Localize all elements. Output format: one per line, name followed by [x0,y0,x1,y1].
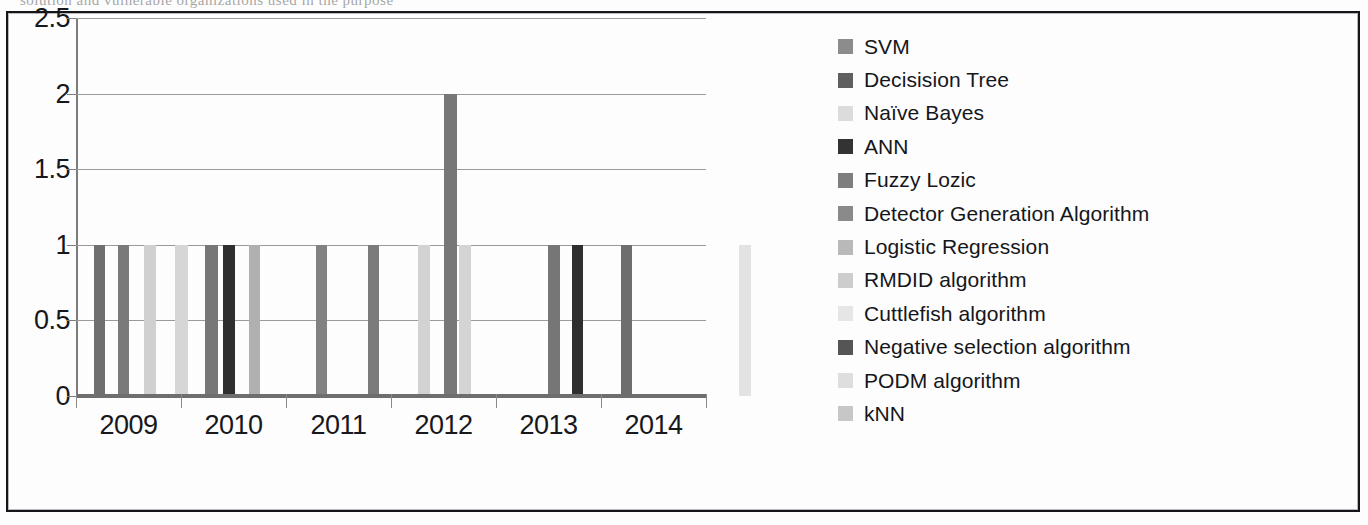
x-axis-category-label: 2011 [310,410,366,441]
legend-item[interactable]: Decisision Tree [838,63,1298,96]
legend-item[interactable]: Naïve Bayes [838,97,1298,130]
legend-item[interactable]: Logistic Regression [838,230,1298,263]
x-axis-tick [391,394,392,408]
legend-swatch-icon [838,173,853,188]
x-axis-category-label: 2012 [414,410,472,441]
y-axis-tick [67,396,76,397]
legend-swatch-icon [838,406,853,421]
y-axis-tick [67,94,76,95]
bar [739,245,751,396]
legend-item[interactable]: Cuttlefish algorithm [838,297,1298,330]
bar [418,245,430,396]
y-axis-tick-label: 2.5 [34,3,70,34]
bar [444,94,457,396]
bar [459,245,471,396]
bar [572,245,583,396]
legend-swatch-icon [838,373,853,388]
legend-item[interactable]: SVM [838,30,1298,63]
plot-area [76,18,706,396]
chart-legend: SVMDecisision TreeNaïve BayesANNFuzzy Lo… [838,30,1298,431]
x-axis-tick [706,394,707,408]
y-axis-labels: 00.511.522.5 [14,18,74,396]
legend-swatch-icon [838,139,853,154]
legend-swatch-icon [838,39,853,54]
bar [144,245,156,396]
y-axis-tick [67,245,76,246]
legend-item-label: PODM algorithm [864,369,1021,393]
legend-swatch-icon [838,273,853,288]
bar [205,245,218,396]
bar-chart: 00.511.522.5 200920102011201220132014 [14,18,714,413]
legend-item-label: Naïve Bayes [864,101,984,125]
legend-item-label: Fuzzy Lozic [864,168,976,192]
bar [223,245,235,396]
bar-series-group [76,18,706,396]
legend-item-label: RMDID algorithm [864,268,1027,292]
legend-swatch-icon [838,106,853,121]
x-axis-tick [601,394,602,408]
x-axis [76,394,706,410]
bar [94,245,105,396]
bar [316,245,327,396]
legend-item[interactable]: Negative selection algorithm [838,331,1298,364]
bar [118,245,129,396]
legend-item-label: SVM [864,35,910,59]
legend-item-label: kNN [864,402,905,426]
legend-item[interactable]: PODM algorithm [838,364,1298,397]
document-page: solution and vulnerable organizations us… [0,0,1368,525]
y-axis-tick [67,169,76,170]
bar [249,245,260,396]
bar [621,245,632,396]
legend-item[interactable]: RMDID algorithm [838,264,1298,297]
legend-item[interactable]: ANN [838,130,1298,163]
y-axis-tick-label: 1.5 [34,154,70,185]
y-axis-tick [67,18,76,19]
legend-item[interactable]: kNN [838,397,1298,430]
legend-item[interactable]: Detector Generation Algorithm [838,197,1298,230]
x-axis-tick [181,394,182,408]
x-axis-category-label: 2009 [99,410,157,441]
legend-item-label: Negative selection algorithm [864,335,1131,359]
x-axis-category-label: 2010 [204,410,262,441]
bar [548,245,560,396]
y-axis-tick [67,320,76,321]
legend-swatch-icon [838,306,853,321]
legend-item-label: Decisision Tree [864,68,1009,92]
x-axis-tick [286,394,287,408]
bar [175,245,188,396]
legend-item-label: Logistic Regression [864,235,1049,259]
legend-swatch-icon [838,206,853,221]
legend-swatch-icon [838,240,853,255]
y-axis-tick-label: 0.5 [34,305,70,336]
legend-item[interactable]: Fuzzy Lozic [838,164,1298,197]
x-axis-category-label: 2013 [519,410,577,441]
legend-swatch-icon [838,340,853,355]
bar [368,245,379,396]
x-axis-tick [76,394,77,408]
x-axis-tick [496,394,497,408]
legend-item-label: Detector Generation Algorithm [864,202,1149,226]
legend-item-label: Cuttlefish algorithm [864,302,1046,326]
cutoff-header-text: solution and vulnerable organizations us… [20,0,1020,8]
legend-swatch-icon [838,73,853,88]
legend-item-label: ANN [864,135,909,159]
x-axis-category-label: 2014 [624,410,682,441]
x-axis-labels: 200920102011201220132014 [76,410,706,450]
